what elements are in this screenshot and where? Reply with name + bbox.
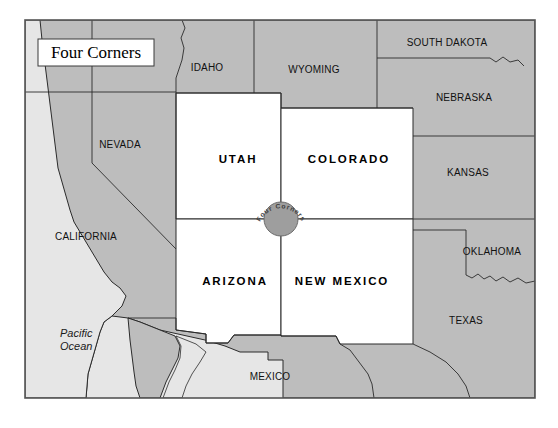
pacific-ocean-label: Pacific Ocean [60,327,93,352]
map-title-box: Four Corners [38,39,154,66]
four-corners-map: Four Corners IDAHO WYOMING SOUTH DAKOTA … [0,0,558,428]
label-kansas: KANSAS [447,167,489,178]
label-mexico: MEXICO [250,371,291,382]
label-arizona: ARIZONA [202,275,268,287]
label-south-dakota: SOUTH DAKOTA [407,37,488,48]
label-nevada: NEVADA [99,139,141,150]
label-oklahoma: OKLAHOMA [463,246,521,257]
label-utah: UTAH [219,153,258,165]
pacific-ocean-label-line1: Pacific [60,327,93,339]
label-new-mexico: NEW MEXICO [295,275,389,287]
label-nebraska: NEBRASKA [436,92,492,103]
label-idaho: IDAHO [191,62,224,73]
pacific-ocean-label-line2: Ocean [60,340,92,352]
label-texas: TEXAS [449,315,483,326]
label-wyoming: WYOMING [288,64,339,75]
label-california: CALIFORNIA [55,231,117,242]
map-canvas: Four Corners IDAHO WYOMING SOUTH DAKOTA … [0,0,558,428]
label-colorado: COLORADO [308,153,390,165]
map-title: Four Corners [51,43,141,62]
